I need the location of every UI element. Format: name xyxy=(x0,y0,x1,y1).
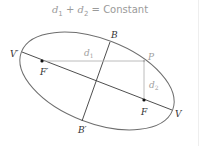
right-edge-divider xyxy=(198,0,199,146)
ellipse-diagram: V′ F′ B B′ P F V d1 d2 xyxy=(0,0,200,146)
label-d2: d2 xyxy=(149,80,159,91)
point-p xyxy=(143,60,145,62)
label-b: B xyxy=(110,30,118,40)
label-d1: d1 xyxy=(84,48,94,59)
label-v-prime: V′ xyxy=(10,49,19,59)
label-v: V xyxy=(175,109,183,119)
label-f-prime: F′ xyxy=(39,67,48,77)
focus-f-prime-point xyxy=(40,59,43,62)
label-b-prime: B′ xyxy=(77,125,87,135)
focus-f-point xyxy=(142,98,145,101)
label-p: P xyxy=(147,52,155,62)
label-f: F xyxy=(140,107,148,117)
